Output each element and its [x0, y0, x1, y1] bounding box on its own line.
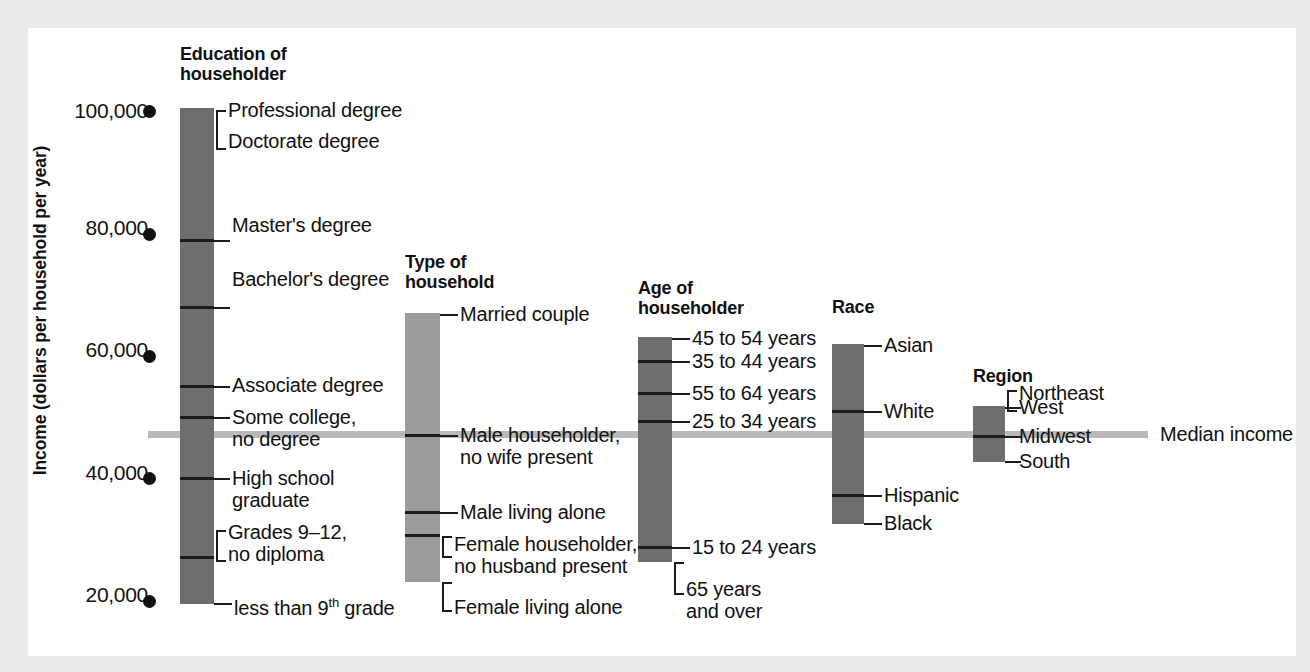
bracket-education-top: [216, 110, 226, 150]
bar-tick-white: [832, 410, 864, 413]
lead-male-living-alone: [440, 512, 458, 514]
item-label-white: White: [884, 400, 934, 422]
group-title-age-of-householder: Age of householder: [638, 278, 744, 318]
item-label-south: South: [1019, 450, 1070, 472]
lead-bachelors-degree: [214, 307, 230, 309]
y-tick-label-80000: 80,000: [86, 216, 148, 240]
bar-region[interactable]: [973, 406, 1005, 462]
bar-tick-15-to-24-years: [638, 546, 672, 549]
median-income-label: Median income: [1160, 423, 1293, 446]
bar-tick-male-living-alone: [405, 511, 440, 514]
lead-less-than-9th-grade: [214, 603, 232, 605]
bar-age-of-householder[interactable]: [638, 337, 672, 562]
lead-some-college: [214, 417, 230, 419]
lead-masters-degree: [214, 240, 230, 242]
item-label-west: West: [1019, 396, 1063, 418]
lead-high-school-graduate: [214, 478, 230, 480]
bar-tick-associate-degree: [180, 385, 214, 388]
bar-tick-bachelors-degree: [180, 306, 214, 309]
lead-hispanic: [864, 495, 882, 497]
item-label-male-householder: Male householder, no wife present: [460, 424, 620, 468]
lead-15-to-24-years: [672, 547, 690, 549]
bar-tick-grades-9-12: [180, 556, 214, 559]
y-tick-label-40000: 40,000: [86, 461, 148, 485]
bracket-female-living-alone: [442, 582, 452, 612]
y-tick-label-100000: 100,000: [74, 99, 148, 123]
item-label-married-couple: Married couple: [460, 303, 590, 325]
group-title-type-of-household: Type of household: [405, 252, 494, 292]
bar-type-of-household[interactable]: [405, 313, 440, 582]
bar-race[interactable]: [832, 344, 864, 524]
bar-tick-55-to-64-years: [638, 392, 672, 395]
item-label-masters-degree: Master's degree: [232, 214, 372, 236]
y-tick-dot-60000: [143, 350, 156, 363]
bar-tick-35-to-44-years: [638, 360, 672, 363]
y-axis-title: Income (dollars per household per year): [30, 101, 51, 521]
bar-tick-high-school-graduate: [180, 477, 214, 480]
item-label-some-college: Some college, no degree: [232, 406, 356, 450]
y-tick-dot-80000: [143, 228, 156, 241]
bar-education[interactable]: [180, 108, 214, 604]
item-label-high-school-graduate: High school graduate: [232, 467, 334, 511]
item-label-15-to-24-years: 15 to 24 years: [692, 536, 816, 558]
item-label-65-years-and-over: 65 years and over: [686, 578, 762, 622]
bar-tick-hispanic: [832, 494, 864, 497]
item-label-black: Black: [884, 512, 932, 534]
lead-white: [864, 411, 882, 413]
y-tick-label-60000: 60,000: [86, 338, 148, 362]
bar-tick-25-to-34-years: [638, 420, 672, 423]
item-label-professional-degree: Professional degree: [228, 99, 402, 121]
bracket-grades-9-12: [216, 530, 226, 562]
lead-associate-degree: [214, 386, 230, 388]
bar-tick-male-householder: [405, 434, 440, 437]
y-tick-dot-20000: [143, 595, 156, 608]
bar-tick-masters-degree: [180, 239, 214, 242]
bar-tick-some-college: [180, 416, 214, 419]
item-label-female-living-alone: Female living alone: [454, 596, 623, 618]
lead-black: [864, 523, 882, 525]
item-label-45-to-54-years: 45 to 54 years: [692, 327, 816, 349]
item-label-associate-degree: Associate degree: [232, 374, 383, 396]
y-tick-label-20000: 20,000: [86, 583, 148, 607]
lead-asian: [864, 345, 882, 347]
bracket-female-householder: [442, 536, 452, 558]
y-tick-dot-100000: [143, 105, 156, 118]
item-label-female-householder: Female householder, no husband present: [454, 533, 637, 577]
bracket-65-years-and-over: [674, 562, 684, 595]
item-label-grades-9-12: Grades 9–12, no diploma: [228, 521, 347, 565]
lead-55-to-64-years: [672, 393, 690, 395]
item-label-asian: Asian: [884, 334, 933, 356]
item-label-less-than-9th-grade: less than 9th grade: [234, 592, 395, 619]
item-label-hispanic: Hispanic: [884, 484, 959, 506]
y-tick-dot-40000: [143, 472, 156, 485]
lead-male-householder: [440, 435, 458, 437]
chart-layer: Income (dollars per household per year) …: [0, 0, 1310, 672]
item-label-doctorate-degree: Doctorate degree: [228, 130, 379, 152]
lead-married-couple: [440, 314, 458, 316]
item-label-25-to-34-years: 25 to 34 years: [692, 410, 816, 432]
lead-25-to-34-years: [672, 421, 690, 423]
group-title-education: Education of householder: [180, 44, 287, 84]
item-label-35-to-44-years: 35 to 44 years: [692, 350, 816, 372]
item-label-bachelors-degree: Bachelor's degree: [232, 268, 389, 290]
lead-45-to-54-years: [672, 338, 690, 340]
lead-35-to-44-years: [672, 361, 690, 363]
bar-tick-female-householder: [405, 534, 440, 537]
item-label-midwest: Midwest: [1019, 425, 1091, 447]
item-label-male-living-alone: Male living alone: [460, 501, 606, 523]
group-title-race: Race: [832, 297, 874, 317]
bar-tick-midwest: [973, 435, 1005, 438]
figure-canvas: Income (dollars per household per year) …: [0, 0, 1310, 672]
item-label-55-to-64-years: 55 to 64 years: [692, 382, 816, 404]
